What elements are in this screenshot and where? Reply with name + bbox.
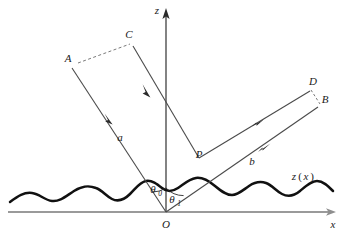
incident-ray-right-arrowhead: [143, 84, 151, 97]
scattering-diagram-figure: A C D B P O a b θ 0 θ 1 z x z ( x ): [0, 0, 343, 236]
beam-label-b: b: [249, 155, 255, 167]
theta1-symbol: θ: [169, 193, 175, 205]
theta0-symbol: θ: [150, 183, 156, 195]
scattered-wavefront-db-dashed: [311, 90, 320, 104]
z-axis-label: z: [154, 4, 160, 16]
incident-wavefront-ac-dashed: [78, 44, 130, 63]
surface-label-open-paren: (: [298, 170, 302, 183]
point-label-D: D: [308, 75, 317, 87]
theta1-subscript: 1: [177, 199, 181, 208]
point-label-B: B: [322, 93, 329, 105]
beam-label-a: a: [117, 131, 123, 143]
x-axis: [8, 208, 336, 216]
z-axis: [162, 8, 169, 212]
surface-label-z: z: [291, 170, 297, 182]
scattered-ray-o-to-b: [166, 107, 318, 212]
point-label-P: P: [195, 148, 203, 160]
diagram-canvas: A C D B P O a b θ 0 θ 1 z x z ( x ): [0, 0, 343, 236]
point-label-A: A: [64, 52, 72, 64]
surface-label-close-paren: ): [310, 170, 314, 183]
surface-label-x: x: [303, 170, 309, 182]
scattered-ray-lower-line: [166, 107, 318, 212]
x-axis-label: x: [330, 218, 336, 230]
surface-function-label: z ( x ): [291, 170, 314, 183]
point-label-C: C: [125, 28, 133, 40]
point-label-O: O: [162, 218, 170, 230]
theta0-subscript: 0: [158, 189, 162, 198]
